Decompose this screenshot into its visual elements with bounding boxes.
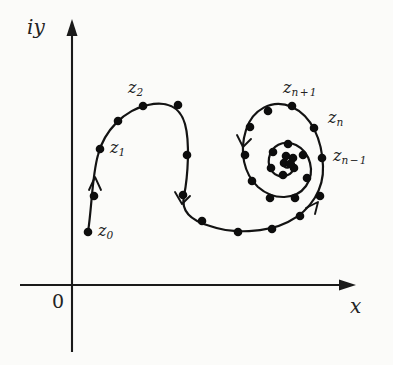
sequence-dot-9 (234, 228, 243, 237)
z1-subscript: 1 (118, 146, 125, 158)
sequence-dot-20 (266, 194, 275, 203)
sequence-dot-zn (310, 124, 319, 133)
sequence-dot-8 (198, 217, 207, 226)
sequence-dot-10 (268, 225, 277, 234)
point-label-z1: z1 (110, 140, 125, 158)
sequence-dot-21 (291, 194, 300, 203)
spiral-curve (88, 104, 323, 232)
sequence-dot-27 (279, 171, 288, 180)
sequence-dot-12 (316, 192, 325, 201)
znm1-operator: − (348, 154, 359, 166)
x-axis-label: x (350, 296, 361, 316)
point-label-zn: zn (328, 110, 343, 128)
z2-subscript: 2 (136, 86, 143, 98)
sequence-dot-zn_plus_1 (288, 102, 297, 111)
y-axis-arrowhead (67, 19, 78, 36)
sequence-dot-1 (90, 192, 99, 201)
sequence-dot-16 (264, 107, 273, 116)
sequence-dot-24 (284, 140, 293, 149)
point-label-zn-plus-1: zn+1 (283, 80, 317, 98)
zn-subscript: n (336, 116, 343, 128)
sequence-dot-z2 (139, 102, 148, 111)
x-axis-arrowhead (339, 280, 356, 291)
sequence-dot-32 (286, 160, 295, 169)
sequence-dot-7 (179, 191, 188, 200)
sequence-dot-6 (183, 151, 192, 160)
sequence-dot-5 (174, 101, 183, 110)
figure-canvas: iy x 0 z0 z1 z2 zn+1 zn zn−1 (0, 0, 393, 365)
origin-label: 0 (52, 292, 64, 311)
znp1-operand: 1 (310, 86, 317, 98)
sequence-dot-zn_minus_1 (318, 154, 327, 163)
sequence-dot-23 (299, 151, 308, 160)
sequence-dot-z1 (96, 145, 105, 154)
znm1-operand: 1 (360, 154, 367, 166)
sequence-dot-26 (267, 164, 276, 173)
y-axis-label: iy (27, 17, 45, 37)
z0-subscript: 0 (106, 229, 113, 241)
znp1-operator: + (298, 86, 309, 98)
sequence-dot-17 (246, 123, 255, 132)
sequence-dot-25 (269, 148, 278, 157)
direction-arrow-ascending (89, 177, 101, 190)
sequence-path-group (88, 104, 323, 232)
sequence-dot-3 (114, 117, 123, 126)
point-label-z0: z0 (98, 223, 113, 241)
sequence-dot-18 (241, 151, 250, 160)
sequence-dot-z0 (84, 228, 93, 237)
point-label-z2: z2 (128, 80, 143, 98)
sequence-dot-11 (296, 212, 305, 221)
sequence-dot-19 (248, 177, 257, 186)
sequence-dot-22 (303, 174, 312, 183)
point-label-zn-minus-1: zn−1 (333, 148, 367, 166)
sequence-dots-group (84, 101, 327, 237)
